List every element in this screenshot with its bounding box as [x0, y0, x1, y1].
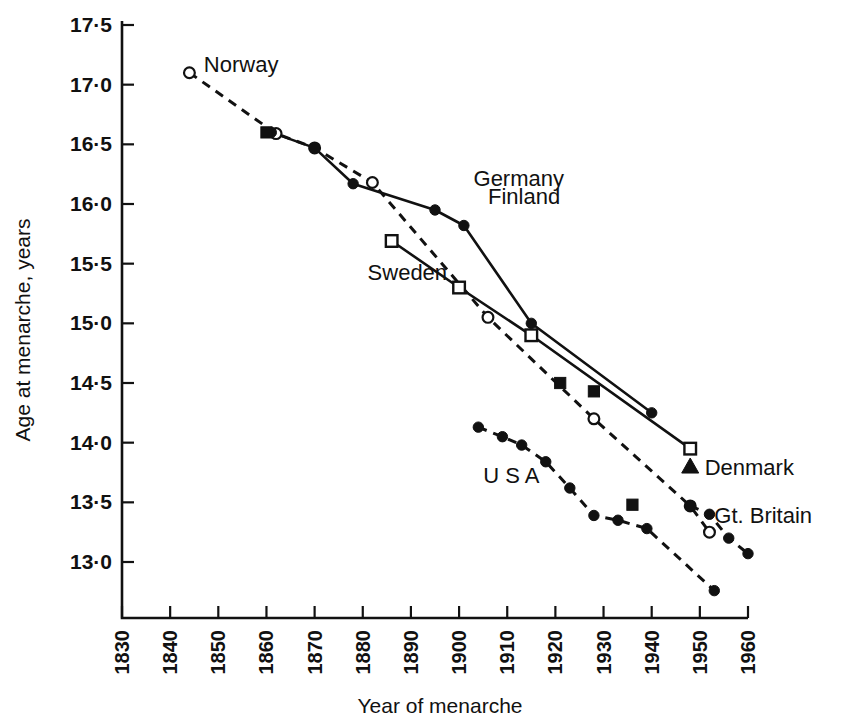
data-point-usa	[642, 523, 652, 533]
series-label-gt-britain: Gt. Britain	[714, 503, 812, 528]
data-point-finland	[526, 318, 536, 328]
series-markers	[184, 67, 753, 596]
y-tick-label: 14·0	[70, 431, 112, 454]
x-tick-label: 1860	[255, 630, 277, 675]
series-line-finland	[271, 132, 651, 412]
y-axis-title: Age at menarche, years	[11, 219, 34, 442]
data-point-sweden	[684, 443, 696, 455]
data-point-usa	[565, 483, 575, 493]
x-tick-label: 1830	[111, 630, 133, 675]
data-point-usa	[589, 510, 599, 520]
data-point-sweden	[526, 329, 538, 341]
data-point-germany	[555, 377, 566, 388]
x-tick-label: 1930	[593, 630, 615, 675]
data-point-finland	[348, 179, 358, 189]
x-tick-label: 1840	[159, 630, 181, 675]
axes-group	[122, 21, 748, 618]
x-tick-label: 1920	[544, 630, 566, 675]
x-tick-label: 1890	[400, 630, 422, 675]
y-tick-label: 13·5	[70, 490, 112, 513]
series-line-norway	[189, 73, 709, 533]
x-axis-tick-labels: 1830184018501860187018801890190019101920…	[111, 630, 759, 675]
data-point-germany	[588, 386, 599, 397]
data-point-finland	[646, 408, 656, 418]
data-point-sweden	[386, 235, 398, 247]
series-label-finland: Finland	[488, 184, 560, 209]
y-tick-label: 13·0	[70, 550, 112, 573]
data-point-gt-britain	[724, 533, 734, 543]
data-point-norway	[704, 527, 715, 538]
data-point-usa	[473, 422, 483, 432]
x-tick-label: 1910	[496, 630, 518, 675]
data-point-finland	[309, 143, 319, 153]
series-label-sweden: Sweden	[368, 260, 448, 285]
data-point-germany	[627, 499, 638, 510]
x-tick-label: 1950	[689, 630, 711, 675]
y-axis-tick-labels: 13·013·514·014·515·015·516·016·517·017·5	[70, 13, 112, 573]
data-point-finland	[459, 220, 469, 230]
y-tick-label: 17·5	[70, 13, 112, 36]
data-point-norway	[589, 413, 600, 424]
data-point-usa	[516, 440, 526, 450]
data-point-gt-britain	[685, 501, 695, 511]
series-line-usa	[478, 427, 714, 590]
y-tick-label: 15·0	[70, 311, 112, 334]
y-tick-label: 14·5	[70, 371, 112, 394]
series-label-usa: U S A	[483, 463, 540, 488]
data-point-usa	[709, 585, 719, 595]
x-axis-ticks	[122, 606, 748, 618]
y-tick-label: 16·0	[70, 192, 112, 215]
x-tick-label: 1940	[641, 630, 663, 675]
data-point-norway	[483, 312, 494, 323]
x-tick-label: 1870	[304, 630, 326, 675]
data-point-gt-britain	[704, 509, 714, 519]
chart-canvas: 13·013·514·014·515·015·516·016·517·017·5…	[0, 0, 857, 725]
data-point-norway	[367, 177, 378, 188]
data-point-norway	[184, 67, 195, 78]
data-point-usa	[541, 457, 551, 467]
x-axis-title: Year of menarche	[358, 694, 523, 717]
y-tick-label: 15·5	[70, 252, 112, 275]
data-point-usa	[613, 515, 623, 525]
data-point-usa	[497, 432, 507, 442]
series-label-norway: Norway	[204, 52, 279, 77]
axis-frame	[122, 21, 748, 618]
data-point-gt-britain	[743, 548, 753, 558]
series-lines	[189, 73, 748, 591]
x-tick-label: 1900	[448, 630, 470, 675]
y-tick-label: 17·0	[70, 73, 112, 96]
y-axis-ticks	[122, 25, 134, 562]
y-tick-label: 16·5	[70, 132, 112, 155]
x-tick-label: 1850	[207, 630, 229, 675]
data-point-sweden	[453, 282, 465, 294]
data-point-finland	[430, 205, 440, 215]
x-tick-label: 1960	[737, 630, 759, 675]
series-label-denmark: Denmark	[705, 455, 795, 480]
menarche-age-line-chart: 13·013·514·014·515·015·516·016·517·017·5…	[0, 0, 857, 725]
data-point-denmark	[682, 458, 699, 473]
data-point-germany	[261, 127, 272, 138]
x-tick-label: 1880	[352, 630, 374, 675]
